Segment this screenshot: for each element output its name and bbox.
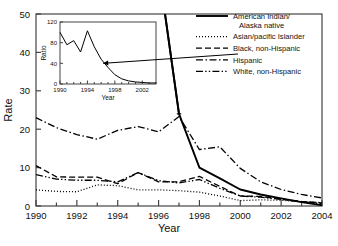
x-tick-label: 1996 <box>148 210 169 221</box>
series-line-0-offscale <box>159 0 179 114</box>
legend-label-2: Black, non-Hispanic <box>233 44 300 53</box>
y-tick-label: 20 <box>19 124 30 135</box>
inset-x-tick-label: 1990 <box>53 87 67 93</box>
chart-figure: 0102030405019901992199419961998200020022… <box>0 0 338 246</box>
series-line-3 <box>36 117 322 198</box>
legend-label-3: Hispanic <box>233 56 262 65</box>
y-tick-label: 30 <box>19 85 30 96</box>
inset-frame <box>60 22 156 84</box>
legend-label-0: American Indian/ <box>233 12 291 21</box>
legend-label-0-line2: Alaska native <box>239 21 284 30</box>
y-tick-label: 50 <box>19 9 30 20</box>
inset-y-tick-label: 80 <box>50 40 57 46</box>
x-tick-label: 2004 <box>311 210 332 221</box>
x-tick-label: 1990 <box>25 210 46 221</box>
inset-y-axis-title: Ratio <box>40 45 47 61</box>
series-line-0 <box>159 0 322 205</box>
x-tick-label: 1994 <box>107 210 128 221</box>
y-tick-label: 10 <box>19 162 30 173</box>
y-tick-label: 40 <box>19 47 30 58</box>
inset-x-tick-label: 2002 <box>136 87 150 93</box>
inset-y-tick-label: 40 <box>50 61 57 67</box>
inset-x-tick-label: 1994 <box>81 87 95 93</box>
x-tick-label: 2000 <box>230 210 251 221</box>
inset-x-tick-label: 1998 <box>108 87 122 93</box>
inset-y-tick-label: 120 <box>47 19 58 25</box>
rate-by-race-line-chart: 0102030405019901992199419961998200020022… <box>0 0 338 246</box>
legend-label-1: Asian/pacific Islander <box>233 32 305 41</box>
x-tick-label: 1998 <box>189 210 210 221</box>
x-tick-label: 2002 <box>271 210 292 221</box>
legend-label-4: White, non-Hispanic <box>233 67 301 76</box>
y-axis-title: Rate <box>2 98 14 121</box>
legend: American Indian/Alaska nativeAsian/pacif… <box>192 10 324 82</box>
inset-x-axis-title: Year <box>101 94 115 101</box>
inset-chart: 040801201990199419982002YearRatio <box>40 19 156 101</box>
x-axis-title: Year <box>158 222 181 234</box>
x-tick-label: 1992 <box>66 210 87 221</box>
